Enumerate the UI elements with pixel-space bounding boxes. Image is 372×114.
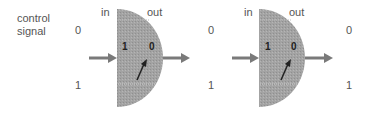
gate-2-output-arrow-icon <box>305 53 333 63</box>
gate-1-out-label: out <box>147 6 162 18</box>
gate-2-right-state-0: 0 <box>346 24 352 36</box>
gate-1-right-state-1: 1 <box>208 79 214 91</box>
gate-1-output-arrow-icon <box>163 53 190 63</box>
gate-1-in-label: in <box>101 6 110 18</box>
gate-1-left-state-1: 1 <box>75 79 81 91</box>
gate-1-half-disc <box>117 9 163 107</box>
gate-2-out-label: out <box>289 6 304 18</box>
gate-1-input-arrow-icon <box>89 53 117 63</box>
gate-1-right-state-0: 0 <box>208 24 214 36</box>
control-label-line1: control <box>17 12 50 25</box>
control-label-line2: signal <box>17 25 50 38</box>
control-signal-label: control signal <box>17 14 50 38</box>
gate-2-half-disc <box>259 9 305 107</box>
diagram-canvas <box>0 0 372 114</box>
gate-1-inner-right: 0 <box>149 41 155 53</box>
gate-2-right-state-1: 1 <box>346 79 352 91</box>
gate-2 <box>232 9 333 107</box>
gate-1-inner-left: 1 <box>122 41 128 53</box>
gate-2-inner-right: 0 <box>291 41 297 53</box>
gate-1 <box>89 9 190 107</box>
gate-1-left-state-0: 0 <box>75 24 81 36</box>
gate-2-in-label: in <box>244 6 253 18</box>
gate-2-input-arrow-icon <box>232 53 259 63</box>
gate-2-inner-left: 1 <box>265 41 271 53</box>
